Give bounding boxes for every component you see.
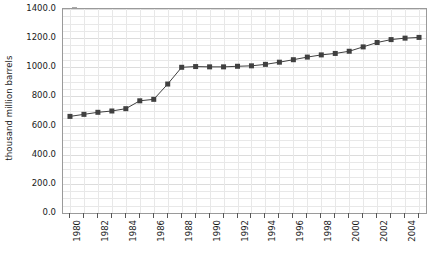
data-point-marker (179, 65, 184, 70)
data-point-marker (151, 97, 156, 102)
y-tick-label: 1400.0 (26, 3, 56, 13)
x-tick-mark (181, 213, 182, 218)
x-tick-label: 1994 (267, 220, 277, 242)
x-tick-label: 1990 (212, 220, 222, 242)
x-tick-mark (292, 213, 293, 218)
x-axis-tick-marks (62, 213, 427, 219)
data-point-marker (67, 114, 72, 119)
x-tick-mark (237, 213, 238, 218)
data-point-marker (263, 62, 268, 67)
x-tick-label: 1996 (295, 220, 305, 242)
data-point-marker (249, 63, 254, 68)
x-tick-mark (139, 213, 140, 218)
x-tick-mark (125, 213, 126, 218)
x-tick-label: 2002 (379, 220, 389, 242)
x-tick-mark (111, 213, 112, 218)
x-tick-mark (334, 213, 335, 218)
x-tick-mark (320, 213, 321, 218)
data-point-marker (277, 60, 282, 65)
data-point-marker (193, 64, 198, 69)
x-tick-mark (362, 213, 363, 218)
data-point-marker (123, 106, 128, 111)
x-tick-label: 1992 (240, 220, 250, 242)
data-point-marker (109, 109, 114, 114)
x-tick-label: 2000 (351, 220, 361, 242)
y-tick-label: 1000.0 (26, 61, 56, 71)
data-point-marker (361, 44, 366, 49)
series-line (70, 37, 419, 116)
chart-container: thousand million barrels 0.0200.0400.060… (0, 0, 433, 256)
y-tick-label: 800.0 (32, 90, 56, 100)
data-point-marker (221, 64, 226, 69)
x-tick-mark (404, 213, 405, 218)
data-point-marker (333, 51, 338, 56)
data-point-marker (207, 64, 212, 69)
data-point-marker (305, 55, 310, 60)
data-series (63, 9, 426, 213)
x-tick-label: 1982 (100, 220, 110, 242)
y-axis-tick-labels: 0.0200.0400.0600.0800.01000.01200.01400.… (16, 0, 60, 220)
x-tick-label: 1980 (72, 220, 82, 242)
data-point-marker (95, 110, 100, 115)
y-axis-title-label: thousand million barrels (4, 55, 14, 160)
x-tick-mark (153, 213, 154, 218)
x-tick-mark (209, 213, 210, 218)
data-point-marker (347, 49, 352, 54)
x-tick-mark (250, 213, 251, 218)
x-axis-tick-labels: 1980198219841986198819901992199419961998… (62, 220, 427, 256)
x-tick-mark (195, 213, 196, 218)
x-tick-label: 1984 (128, 220, 138, 242)
data-point-marker (417, 35, 422, 40)
x-tick-label: 1986 (156, 220, 166, 242)
x-tick-mark (69, 213, 70, 218)
data-point-marker (81, 112, 86, 117)
y-tick-label: 0.0 (42, 207, 56, 217)
y-tick-label: 200.0 (32, 178, 56, 188)
x-tick-label: 1998 (323, 220, 333, 242)
x-tick-label: 1988 (184, 220, 194, 242)
x-tick-mark (223, 213, 224, 218)
x-tick-mark (376, 213, 377, 218)
data-point-marker (165, 82, 170, 87)
data-point-marker (389, 37, 394, 42)
data-point-marker (291, 57, 296, 62)
x-tick-mark (278, 213, 279, 218)
data-point-marker (375, 40, 380, 45)
x-tick-label: 2004 (407, 220, 417, 242)
x-tick-mark (97, 213, 98, 218)
x-tick-mark (83, 213, 84, 218)
y-tick-label: 600.0 (32, 120, 56, 130)
y-tick-label: 1200.0 (26, 32, 56, 42)
data-point-marker (403, 36, 408, 41)
x-tick-mark (264, 213, 265, 218)
x-tick-mark (167, 213, 168, 218)
x-tick-mark (306, 213, 307, 218)
plot-area (62, 8, 427, 214)
data-point-marker (319, 52, 324, 57)
data-point-marker (137, 98, 142, 103)
y-tick-label: 400.0 (32, 149, 56, 159)
data-point-marker (235, 64, 240, 69)
x-tick-mark (348, 213, 349, 218)
x-tick-mark (418, 213, 419, 218)
x-tick-mark (390, 213, 391, 218)
